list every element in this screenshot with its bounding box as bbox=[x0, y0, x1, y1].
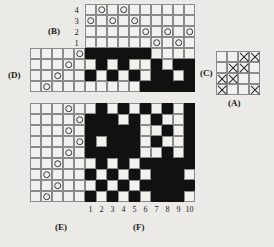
drawdown-upper-cell[interactable] bbox=[184, 70, 195, 81]
treadling-lower-cell[interactable] bbox=[30, 180, 41, 191]
drawdown-lower-cell[interactable] bbox=[173, 180, 184, 191]
threading-cell[interactable] bbox=[162, 37, 173, 48]
drawdown-upper-cell[interactable] bbox=[96, 48, 107, 59]
threading-cell[interactable] bbox=[140, 37, 151, 48]
threading-cell[interactable] bbox=[85, 4, 96, 15]
drawdown-lower-cell[interactable] bbox=[173, 169, 184, 180]
treadling-lower-cell[interactable] bbox=[30, 169, 41, 180]
treadling-lower-cell[interactable] bbox=[63, 136, 74, 147]
tieup-cell[interactable] bbox=[249, 73, 260, 84]
treadling-lower-cell[interactable] bbox=[41, 191, 52, 202]
drawdown-lower-cell[interactable] bbox=[129, 114, 140, 125]
treadling-lower-cell[interactable] bbox=[52, 169, 63, 180]
threading-cell[interactable] bbox=[85, 15, 96, 26]
treadling-upper-cell[interactable] bbox=[63, 81, 74, 92]
treadling-lower-cell[interactable] bbox=[30, 147, 41, 158]
drawdown-lower-cell[interactable] bbox=[107, 158, 118, 169]
drawdown-lower-cell[interactable] bbox=[107, 136, 118, 147]
drawdown-upper-cell[interactable] bbox=[129, 59, 140, 70]
drawdown-lower-cell[interactable] bbox=[107, 180, 118, 191]
treadling-upper-cell[interactable] bbox=[52, 70, 63, 81]
threading-cell[interactable] bbox=[107, 4, 118, 15]
drawdown-lower-cell[interactable] bbox=[151, 180, 162, 191]
drawdown-lower-cell[interactable] bbox=[96, 103, 107, 114]
tieup-cell[interactable] bbox=[238, 51, 249, 62]
drawdown-lower-cell[interactable] bbox=[129, 191, 140, 202]
treadling-lower-cell[interactable] bbox=[74, 125, 85, 136]
treadling-upper-cell[interactable] bbox=[30, 48, 41, 59]
drawdown-lower-cell[interactable] bbox=[162, 136, 173, 147]
drawdown-lower-cell[interactable] bbox=[96, 180, 107, 191]
drawdown-upper-cell[interactable] bbox=[107, 48, 118, 59]
drawdown-upper-cell[interactable] bbox=[151, 59, 162, 70]
drawdown-lower-cell[interactable] bbox=[140, 191, 151, 202]
drawdown-upper-cell[interactable] bbox=[96, 70, 107, 81]
threading-grid[interactable] bbox=[85, 4, 195, 48]
treadling-upper-cell[interactable] bbox=[74, 81, 85, 92]
treadling-upper-cell[interactable] bbox=[52, 59, 63, 70]
drawdown-lower-cell[interactable] bbox=[129, 158, 140, 169]
threading-cell[interactable] bbox=[107, 37, 118, 48]
drawdown-lower-cell[interactable] bbox=[118, 125, 129, 136]
drawdown-lower-cell[interactable] bbox=[173, 114, 184, 125]
drawdown-upper-cell[interactable] bbox=[173, 81, 184, 92]
drawdown-lower-cell[interactable] bbox=[151, 125, 162, 136]
drawdown-lower-cell[interactable] bbox=[96, 114, 107, 125]
tieup-cell[interactable] bbox=[249, 62, 260, 73]
drawdown-lower-cell[interactable] bbox=[129, 103, 140, 114]
treadling-lower-cell[interactable] bbox=[52, 136, 63, 147]
treadling-lower-cell[interactable] bbox=[30, 158, 41, 169]
threading-cell[interactable] bbox=[140, 26, 151, 37]
treadling-upper-cell[interactable] bbox=[74, 70, 85, 81]
threading-cell[interactable] bbox=[173, 15, 184, 26]
treadling-lower-cell[interactable] bbox=[30, 191, 41, 202]
drawdown-upper-cell[interactable] bbox=[118, 59, 129, 70]
drawdown-lower-cell[interactable] bbox=[173, 191, 184, 202]
drawdown-lower-cell[interactable] bbox=[96, 125, 107, 136]
drawdown-lower-cell[interactable] bbox=[140, 125, 151, 136]
treadling-lower-cell[interactable] bbox=[30, 103, 41, 114]
drawdown-lower-cell[interactable] bbox=[184, 114, 195, 125]
drawdown-lower-cell[interactable] bbox=[151, 147, 162, 158]
treadling-lower-cell[interactable] bbox=[30, 136, 41, 147]
drawdown-upper-cell[interactable] bbox=[184, 81, 195, 92]
treadling-upper-cell[interactable] bbox=[41, 81, 52, 92]
treadling-lower-cell[interactable] bbox=[41, 125, 52, 136]
drawdown-lower-cell[interactable] bbox=[151, 191, 162, 202]
drawdown-upper-cell[interactable] bbox=[85, 70, 96, 81]
threading-cell[interactable] bbox=[96, 37, 107, 48]
threading-cell[interactable] bbox=[118, 4, 129, 15]
drawdown-lower-cell[interactable] bbox=[184, 169, 195, 180]
treadling-lower-cell[interactable] bbox=[74, 180, 85, 191]
treadling-upper-cell[interactable] bbox=[74, 59, 85, 70]
drawdown-lower-cell[interactable] bbox=[107, 147, 118, 158]
drawdown-lower-cell[interactable] bbox=[107, 103, 118, 114]
treadling-lower-cell[interactable] bbox=[63, 103, 74, 114]
drawdown-lower-cell[interactable] bbox=[162, 158, 173, 169]
drawdown-lower-cell[interactable] bbox=[184, 158, 195, 169]
treadling-lower-cell[interactable] bbox=[41, 180, 52, 191]
drawdown-lower-cell[interactable] bbox=[151, 114, 162, 125]
treadling-lower-cell[interactable] bbox=[41, 103, 52, 114]
drawdown-lower-cell[interactable] bbox=[107, 191, 118, 202]
drawdown-lower-cell[interactable] bbox=[162, 191, 173, 202]
drawdown-upper-cell[interactable] bbox=[96, 81, 107, 92]
treadling-lower-cell[interactable] bbox=[74, 147, 85, 158]
treadling-upper-cell[interactable] bbox=[30, 70, 41, 81]
drawdown-lower-cell[interactable] bbox=[85, 103, 96, 114]
threading-cell[interactable] bbox=[129, 26, 140, 37]
drawdown-lower-cell[interactable] bbox=[118, 103, 129, 114]
treadling-upper-cell[interactable] bbox=[41, 48, 52, 59]
drawdown-lower-cell[interactable] bbox=[118, 180, 129, 191]
threading-cell[interactable] bbox=[118, 37, 129, 48]
tieup-cell[interactable] bbox=[216, 84, 227, 95]
drawdown-upper-cell[interactable] bbox=[129, 48, 140, 59]
drawdown-lower-cell[interactable] bbox=[184, 180, 195, 191]
treadling-lower-cell[interactable] bbox=[30, 125, 41, 136]
drawdown-upper-cell[interactable] bbox=[140, 70, 151, 81]
tieup-cell[interactable] bbox=[249, 51, 260, 62]
tieup-cell[interactable] bbox=[227, 51, 238, 62]
tieup-cell[interactable] bbox=[249, 84, 260, 95]
threading-cell[interactable] bbox=[140, 15, 151, 26]
drawdown-lower-cell[interactable] bbox=[173, 136, 184, 147]
